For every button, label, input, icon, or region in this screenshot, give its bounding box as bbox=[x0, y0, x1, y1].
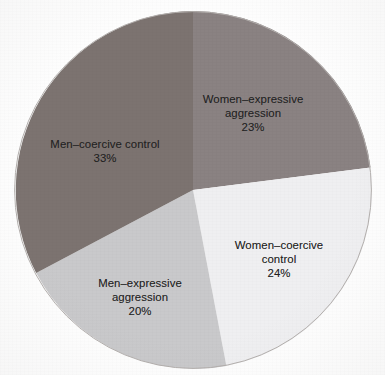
slice-label-women-expressive-aggression: Women–expressive aggression 23% bbox=[190, 92, 316, 135]
slice-label-men-expressive-aggression: Men–expressive aggression 20% bbox=[76, 276, 204, 319]
slice-label-women-coercive-control: Women–coercive control 24% bbox=[218, 238, 340, 281]
slice-label-men-coercive-control: Men–coercive control 33% bbox=[28, 137, 182, 165]
pie-chart-figure: Women–expressive aggression 23% Men–coer… bbox=[0, 0, 385, 375]
